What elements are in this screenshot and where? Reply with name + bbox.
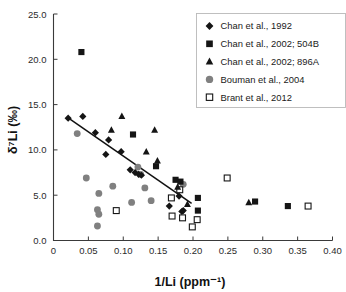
point-diamond-5 — [118, 148, 125, 155]
scatter-plot-figure: 00.050.100.150.200.250.300.350.400.05.01… — [0, 0, 346, 292]
point-square-5 — [195, 195, 201, 201]
point-circle-10 — [141, 185, 148, 192]
legend-label-4: Brant et al., 2012 — [221, 92, 292, 103]
point-square-2 — [153, 163, 159, 169]
legend-marker-open-square — [206, 94, 212, 100]
x-tick-label-0: 0 — [51, 245, 56, 256]
x-axis-label: 1/Li (ppm⁻¹) — [155, 275, 226, 289]
point-circle-6 — [109, 183, 116, 190]
point-open-square-1 — [168, 195, 174, 201]
point-square-7 — [252, 198, 258, 204]
point-triangle-2 — [143, 148, 150, 155]
point-square-4 — [177, 179, 183, 185]
point-open-square-6 — [194, 217, 200, 223]
point-circle-5 — [94, 223, 101, 230]
x-tick-label-3: 0.15 — [149, 245, 168, 256]
point-diamond-1 — [79, 113, 86, 120]
legend-label-3: Bouman et al., 2004 — [221, 74, 305, 85]
y-tick-label-4: 20.0 — [28, 54, 47, 65]
legend: Chan et al., 1992Chan et al., 2002; 504B… — [197, 14, 346, 108]
point-triangle-4 — [154, 157, 161, 164]
point-open-square-7 — [224, 175, 230, 181]
x-tick-label-6: 0.30 — [254, 245, 273, 256]
y-axis-label: δ⁷Li (‰) — [6, 106, 20, 154]
x-tick-label-8: 0.40 — [323, 245, 342, 256]
y-tick-label-3: 15.0 — [28, 99, 47, 110]
point-square-0 — [78, 49, 84, 55]
point-diamond-4 — [105, 136, 112, 143]
point-square-1 — [130, 131, 136, 137]
point-circle-2 — [95, 190, 102, 197]
point-diamond-10 — [166, 202, 173, 209]
y-tick-label-5: 25.0 — [28, 9, 47, 20]
point-open-square-8 — [305, 203, 311, 209]
point-circle-7 — [128, 199, 135, 206]
point-square-8 — [285, 203, 291, 209]
legend-label-0: Chan et al., 1992 — [221, 20, 292, 31]
y-tick-label-1: 5.0 — [33, 190, 46, 201]
point-open-square-0 — [113, 208, 119, 214]
point-diamond-3 — [102, 151, 109, 158]
series-open-square — [113, 175, 311, 230]
point-triangle-3 — [151, 126, 158, 133]
point-triangle-7 — [245, 199, 252, 206]
point-triangle-0 — [108, 126, 115, 133]
legend-label-1: Chan et al., 2002; 504B — [221, 38, 320, 49]
point-circle-4 — [95, 211, 102, 218]
point-circle-0 — [74, 130, 81, 137]
point-square-6 — [195, 208, 201, 214]
point-circle-1 — [83, 175, 90, 182]
y-tick-label-0: 0.0 — [33, 235, 46, 246]
legend-marker-circle — [206, 76, 213, 83]
legend-marker-square — [206, 40, 213, 47]
x-tick-label-1: 0.05 — [79, 245, 98, 256]
x-tick-label-4: 0.20 — [184, 245, 203, 256]
x-tick-label-2: 0.10 — [114, 245, 133, 256]
legend-label-2: Chan et al., 2002; 896A — [221, 56, 320, 67]
y-tick-label-2: 10.0 — [28, 144, 47, 155]
trend-line — [67, 117, 191, 203]
plot-canvas: 00.050.100.150.200.250.300.350.400.05.01… — [0, 0, 346, 292]
regression-line — [67, 117, 191, 203]
point-open-square-2 — [169, 213, 175, 219]
point-triangle-1 — [118, 113, 125, 120]
point-open-square-4 — [180, 215, 186, 221]
point-diamond-0 — [65, 115, 72, 122]
x-tick-label-5: 0.25 — [219, 245, 238, 256]
point-circle-11 — [148, 197, 155, 204]
point-open-square-5 — [189, 224, 195, 230]
x-tick-label-7: 0.35 — [288, 245, 307, 256]
